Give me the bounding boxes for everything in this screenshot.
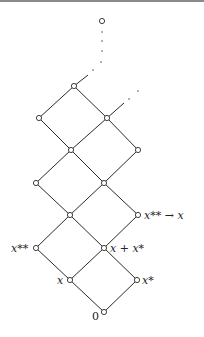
label-x-double-star-to-x: x** → x bbox=[144, 209, 184, 222]
label-x: x bbox=[57, 274, 64, 287]
node-x bbox=[67, 277, 72, 282]
ellipsis-dots bbox=[92, 31, 138, 99]
node bbox=[36, 115, 41, 120]
node-zero bbox=[101, 309, 106, 314]
node-x-star bbox=[134, 277, 139, 282]
lattice-edges bbox=[36, 75, 138, 312]
node bbox=[104, 115, 109, 120]
node bbox=[67, 212, 72, 217]
label-zero: 0 bbox=[92, 310, 99, 323]
node bbox=[135, 147, 140, 152]
node-x-plus-x-star bbox=[101, 245, 106, 250]
node bbox=[101, 180, 106, 185]
node bbox=[71, 83, 76, 88]
node bbox=[33, 180, 38, 185]
label-x-double-star: x** bbox=[11, 242, 29, 255]
node-x-double-star-to-x bbox=[135, 212, 140, 217]
label-x-star: x* bbox=[142, 274, 154, 287]
lattice-diagram: 0 x x* x + x* x** x** → x bbox=[0, 0, 204, 337]
label-x-plus-x-star: x + x* bbox=[110, 242, 145, 255]
node-top bbox=[99, 18, 104, 23]
node-x-double-star bbox=[33, 245, 38, 250]
node bbox=[68, 147, 73, 152]
